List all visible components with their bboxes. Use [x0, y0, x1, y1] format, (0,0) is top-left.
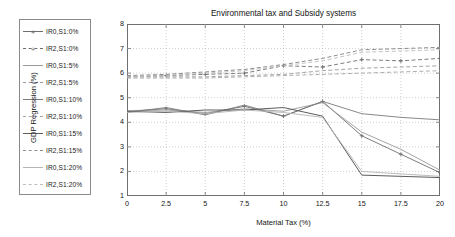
- legend-item-label: IR0,S1:10%: [46, 96, 82, 104]
- series-line-9: [127, 50, 440, 77]
- y-axis-label: GDP Regression (%): [29, 28, 38, 188]
- y-tick-label: 3: [108, 143, 124, 151]
- y-axis-ticks: 12345678: [106, 24, 124, 196]
- x-tick-label: 10: [280, 200, 288, 208]
- x-tick-label: 7.5: [239, 200, 249, 208]
- chart-title: Environmental tax and Subsidy systems: [127, 9, 440, 19]
- chart-figure: +IR0,S1:0%+IR2,S1:0%IR0,S1:5%IR2,S1:5%IR…: [0, 0, 455, 237]
- y-tick-label: 2: [108, 167, 124, 175]
- y-tick-label: 8: [108, 20, 124, 28]
- y-tick-label: 7: [108, 45, 124, 53]
- x-tick-label: 15: [358, 200, 366, 208]
- x-axis-label: Material Tax (%): [127, 218, 440, 227]
- legend-item-label: IR2,S1:20%: [46, 181, 82, 189]
- data-layer: [127, 24, 440, 196]
- legend-item-label: IR2,S1:5%: [46, 79, 78, 87]
- y-tick-label: 5: [108, 94, 124, 102]
- x-tick-label: 12.5: [316, 200, 330, 208]
- legend-item-label: IR0,S1:5%: [46, 62, 78, 70]
- legend-item-label: IR0,S1:20%: [46, 164, 82, 172]
- legend-item-label: IR2,S1:0%: [46, 45, 78, 53]
- legend-item-label: IR2,S1:15%: [46, 147, 82, 155]
- x-tick-label: 0: [125, 200, 129, 208]
- y-tick-label: 6: [108, 69, 124, 77]
- x-tick-label: 2.5: [161, 200, 171, 208]
- x-tick-label: 5: [203, 200, 207, 208]
- plot-area: [127, 24, 440, 196]
- x-axis-ticks: 02.557.51012.51517.520: [127, 200, 440, 212]
- y-tick-label: 1: [108, 192, 124, 200]
- legend-item-label: IR0,S1:15%: [46, 130, 82, 138]
- y-tick-label: 4: [108, 118, 124, 126]
- x-tick-label: 20: [436, 200, 444, 208]
- series-line-8: [127, 110, 440, 176]
- legend-item-label: IR0,S1:0%: [46, 28, 78, 36]
- x-tick-label: 17.5: [394, 200, 408, 208]
- legend-item-label: IR2,S1:10%: [46, 113, 82, 121]
